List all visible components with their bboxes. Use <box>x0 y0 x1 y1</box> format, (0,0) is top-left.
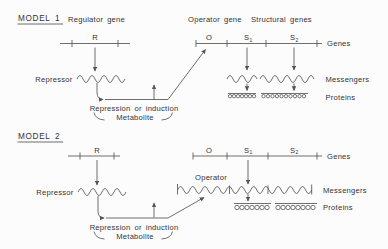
model2-protein-s2-coils <box>276 205 315 209</box>
model2-messenger-wave <box>178 187 312 194</box>
model1-metabolite-label: Metabolite <box>116 113 154 122</box>
model2-operator-action-arrow <box>168 198 204 219</box>
model1-operon-gene-line: O S 1 S 2 <box>196 33 322 47</box>
model1-protein-s2-coils <box>262 95 306 98</box>
model2-genes-row-label: Genes <box>327 152 351 161</box>
model2-repression-label: Repression or induction <box>90 223 179 232</box>
model2-messenger <box>178 184 312 195</box>
model2-r-gene-label: R <box>94 146 100 155</box>
model1-regulator-gene-line: R <box>60 33 130 47</box>
model2-protein-s2 <box>275 204 317 210</box>
model2-proteins-row-label: Proteins <box>323 203 353 212</box>
model2-repressor-stem-hook <box>98 196 104 218</box>
model2-s1-subscript: 1 <box>249 149 252 155</box>
model1-metabolite-bracket-right <box>162 113 173 121</box>
model1-operator-gene-label: Operator gene <box>188 15 242 24</box>
model1-diagram: MODEL 1 Regulator gene Operator gene Str… <box>18 14 370 122</box>
model2-messengers-row-label: Messengers <box>323 186 367 195</box>
model2-metabolite-bracket-left <box>94 232 105 240</box>
model1-repressor-label: Repressor <box>35 75 72 84</box>
model1-protein-s1 <box>228 94 256 98</box>
model2-protein-s1 <box>234 204 271 210</box>
model1-structural-genes-label: Structural genes <box>251 15 312 24</box>
model1-repressor-wave <box>77 76 125 83</box>
model1-genes-row-label: Genes <box>327 39 351 48</box>
model1-messenger-wave-s2 <box>260 76 314 83</box>
model2-o-gene-label: O <box>206 146 212 155</box>
model1-messenger-wave-s1 <box>227 76 257 83</box>
model1-proteins-row-label: Proteins <box>326 93 356 102</box>
model2-repressor-wave <box>78 189 126 196</box>
model2-diagram: MODEL 2 R O S 1 S 2 Genes Repressor <box>18 132 367 241</box>
model1-protein-s2 <box>261 94 308 98</box>
operon-models-figure: MODEL 1 Regulator gene Operator gene Str… <box>0 0 388 249</box>
model1-title: MODEL 1 <box>18 14 60 23</box>
model2-repressor-label: Repressor <box>36 188 73 197</box>
model2-s2-subscript: 2 <box>295 149 298 155</box>
model2-protein-s1-coils <box>235 205 269 209</box>
model1-protein-s1-coils <box>228 95 255 98</box>
model1-metabolite-bracket-left <box>94 113 105 121</box>
model1-r-gene-label: R <box>92 33 98 42</box>
figure-canvas: MODEL 1 Regulator gene Operator gene Str… <box>0 0 388 249</box>
model1-s2-subscript: 2 <box>295 37 298 43</box>
model1-regulator-gene-label: Regulator gene <box>68 15 125 24</box>
model2-regulator-gene-line: R <box>68 146 120 160</box>
model2-title: MODEL 2 <box>18 132 60 141</box>
model1-messengers-row-label: Messengers <box>326 75 370 84</box>
model2-metabolite-label: Metabolite <box>116 232 154 241</box>
model2-operator-label: Operator <box>195 173 227 182</box>
model1-s1-subscript: 1 <box>249 37 252 43</box>
model1-o-gene-label: O <box>206 33 212 42</box>
model2-metabolite-bracket-right <box>162 232 173 240</box>
model1-repressor-stem-hook <box>97 83 103 100</box>
model1-operator-action-arrow <box>168 50 206 100</box>
model2-operon-gene-line: O S 1 S 2 <box>193 146 322 160</box>
model1-repression-label: Repression or induction <box>90 104 179 113</box>
